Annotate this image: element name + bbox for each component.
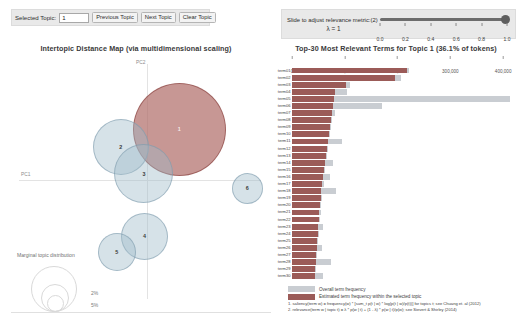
bar-topic-frequency [292,139,328,145]
lambda-value-label: λ = 1 [287,25,380,32]
bar-topic-frequency [292,103,333,109]
bar-row[interactable]: term19 [292,195,519,202]
slider-tick-0.8: 0.8 [478,23,485,45]
bar-row[interactable]: term30 [292,273,519,280]
term-label[interactable]: term17 [278,182,291,186]
term-label[interactable]: term02 [278,76,291,80]
term-label[interactable]: term22 [278,217,291,221]
term-label[interactable]: term11 [278,139,290,143]
bar-row[interactable]: term11 [292,138,519,145]
bar-row[interactable]: term26 [292,244,519,251]
bar-topic-frequency [292,188,321,194]
bar-row[interactable]: term02 [292,74,519,81]
bar-row[interactable]: term03 [292,81,519,88]
bar-topic-frequency [292,224,318,230]
bar-topic-frequency [292,181,322,187]
topic-bubble-3[interactable]: 3 [114,144,173,203]
term-label[interactable]: term26 [278,246,291,250]
bar-row[interactable]: term22 [292,216,519,223]
bar-row[interactable]: term25 [292,237,519,244]
term-label[interactable]: term28 [278,260,291,264]
term-label[interactable]: term06 [278,104,291,108]
bar-row[interactable]: term16 [292,173,519,180]
bar-row[interactable]: term13 [292,152,519,159]
topic-bubble-6[interactable]: 6 [232,173,263,204]
slider-track[interactable] [380,18,507,21]
bar-row[interactable]: term01 [292,67,519,74]
bar-row[interactable]: term28 [292,259,519,266]
previous-topic-button[interactable]: Previous Topic [92,12,138,23]
term-label[interactable]: term01 [278,69,291,73]
term-label[interactable]: term23 [278,225,291,229]
bar-topic-frequency [292,110,332,116]
bar-row[interactable]: term06 [292,102,519,109]
lambda-slider[interactable]: 0.00.20.40.60.81.0 [380,13,507,35]
legend-value-5: 5% [91,302,98,308]
term-label[interactable]: term04 [278,90,291,94]
selected-topic-input[interactable] [59,13,89,23]
bar-row[interactable]: term12 [292,145,519,152]
overall-frequency-swatch [288,286,315,292]
bar-topic-frequency [292,202,320,208]
bar-row[interactable]: term20 [292,202,519,209]
mds-title: Intertopic Distance Map (via multidimens… [11,44,261,53]
term-label[interactable]: term13 [278,154,291,158]
topic-bubble-label: 2 [119,144,122,150]
bar-topic-frequency [292,217,319,223]
next-topic-button[interactable]: Next Topic [141,12,176,23]
term-label[interactable]: term16 [278,175,291,179]
bar-row[interactable]: term18 [292,188,519,195]
term-label[interactable]: term14 [278,161,291,165]
term-label[interactable]: term27 [278,253,291,257]
top-terms-bar-chart[interactable]: 0100,000200,000300,000400,000 term01term… [270,56,522,282]
topic-bubble-label: 6 [246,185,249,191]
bar-chart-plot-area[interactable]: term01term02term03term04term05term06term… [292,67,519,280]
bar-topic-frequency [292,252,316,258]
bar-row[interactable]: term10 [292,131,519,138]
term-label[interactable]: term19 [278,196,291,200]
term-label[interactable]: term21 [278,210,291,214]
bar-row[interactable]: term24 [292,230,519,237]
term-label[interactable]: term03 [278,83,291,87]
term-label[interactable]: term30 [278,274,291,278]
term-label[interactable]: term12 [278,147,291,151]
term-label[interactable]: term15 [278,168,291,172]
relevance-instruction: Slide to adjust relevance metric:(2) [287,17,380,23]
bar-row[interactable]: term09 [292,124,519,131]
bar-topic-frequency [292,117,331,123]
term-label[interactable]: term10 [278,132,291,136]
bar-row[interactable]: term21 [292,209,519,216]
term-label[interactable]: term05 [278,97,291,101]
intertopic-distance-map[interactable]: PC2 PC1 123456 Marginal topic distributi… [11,56,261,318]
term-label[interactable]: term29 [278,267,291,271]
bar-topic-frequency [292,75,395,81]
term-label[interactable]: term24 [278,232,291,236]
bar-chart-legend: Overall term frequency Estimated term fr… [288,286,524,313]
clear-topic-button[interactable]: Clear Topic [179,12,216,23]
legend-row-overall: Overall term frequency [288,286,524,292]
topic-frequency-swatch [288,294,315,300]
bar-topic-frequency [292,96,334,102]
bar-row[interactable]: term07 [292,110,519,117]
term-label[interactable]: term18 [278,189,291,193]
bar-row[interactable]: term17 [292,181,519,188]
slider-tick-0.0: 0.0 [377,23,384,45]
topic-bubble-label: 3 [142,171,145,177]
bar-row[interactable]: term04 [292,88,519,95]
term-label[interactable]: term09 [278,125,291,129]
term-label[interactable]: term07 [278,111,291,115]
bar-row[interactable]: term08 [292,117,519,124]
bar-row[interactable]: term15 [292,166,519,173]
relevance-slider-toolbar: Slide to adjust relevance metric:(2) λ =… [281,9,516,39]
slider-tick-0.2: 0.2 [402,23,409,45]
bar-topic-frequency [292,195,321,201]
bar-row[interactable]: term27 [292,251,519,258]
term-label[interactable]: term20 [278,203,291,207]
term-label[interactable]: term08 [278,118,291,122]
slider-tick-1.0: 1.0 [504,23,511,45]
bar-row[interactable]: term05 [292,95,519,102]
term-label[interactable]: term25 [278,239,291,243]
bar-row[interactable]: term29 [292,266,519,273]
bar-row[interactable]: term23 [292,223,519,230]
bar-row[interactable]: term14 [292,159,519,166]
